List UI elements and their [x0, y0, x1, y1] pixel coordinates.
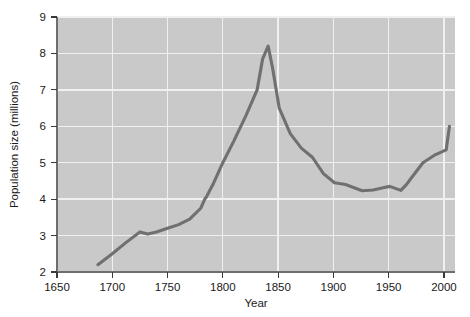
- x-axis-title: Year: [244, 297, 267, 309]
- y-tick-label: 9: [40, 11, 46, 23]
- y-tick-label: 7: [40, 84, 46, 96]
- x-tick-label: 2000: [431, 281, 457, 293]
- x-tick-label: 1700: [99, 281, 125, 293]
- x-tick-label: 1850: [265, 281, 291, 293]
- y-tick-label: 3: [40, 230, 46, 242]
- chart-figure: 16501700175018001850190019502000 2345678…: [0, 0, 470, 317]
- y-tick-label: 5: [40, 157, 46, 169]
- x-tick-label: 1800: [210, 281, 236, 293]
- population-line-chart: 16501700175018001850190019502000 2345678…: [0, 0, 470, 317]
- y-tick-label: 2: [40, 266, 46, 278]
- x-tick-label: 1650: [44, 281, 70, 293]
- y-tick-label: 4: [40, 193, 47, 205]
- x-tick-label: 1950: [376, 281, 402, 293]
- y-tick-label: 8: [40, 47, 46, 59]
- y-tick-label: 6: [40, 120, 46, 132]
- y-axis-tick-labels: 23456789: [40, 11, 47, 278]
- x-axis-ticks: [57, 272, 444, 278]
- x-tick-label: 1900: [321, 281, 347, 293]
- x-axis-tick-labels: 16501700175018001850190019502000: [44, 281, 457, 293]
- x-tick-label: 1750: [155, 281, 181, 293]
- y-axis-title: Population size (millions): [8, 81, 20, 208]
- plot-background: [57, 17, 455, 272]
- y-axis-ticks: [51, 17, 57, 272]
